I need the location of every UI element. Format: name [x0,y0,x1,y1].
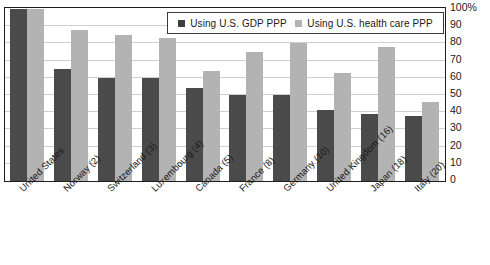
y-axis-tick-label: 30 [450,122,462,133]
legend-swatch-dark-icon [178,20,185,27]
y-axis-tick-label: 60 [450,71,462,82]
bar [10,9,27,181]
legend-label-gdp-ppp: Using U.S. GDP PPP [190,18,287,29]
bar [54,69,71,181]
bar [273,95,290,181]
bar-group [5,8,49,181]
legend-label-health-care-ppp: Using U.S. health care PPP [307,18,432,29]
bar-chart: Using U.S. GDP PPP Using U.S. health car… [0,0,490,265]
bar [229,95,246,181]
bar [71,30,88,181]
bar [405,116,422,181]
bar [98,78,115,181]
y-axis-tick-label: 90 [450,19,462,30]
y-axis-tick-label: 0 [450,174,456,185]
bar [142,78,159,181]
y-axis-tick-label: 10 [450,157,462,168]
legend-entry-gdp-ppp: Using U.S. GDP PPP [178,18,287,29]
x-axis: United StatesNorway (2)Switzerland (3)Lu… [4,182,446,265]
y-axis-tick-label: 70 [450,54,462,65]
y-axis-tick-label: 40 [450,105,462,116]
bar [27,9,44,181]
chart-legend: Using U.S. GDP PPP Using U.S. health car… [167,12,444,34]
bar [159,38,176,181]
y-axis-tick-label: 100% [450,2,477,13]
y-axis-tick-label: 20 [450,140,462,151]
y-axis-tick-label: 80 [450,36,462,47]
y-axis-tick-label: 50 [450,88,462,99]
bar [186,88,203,181]
bar-group [93,8,137,181]
bar [115,35,132,181]
y-axis: 100%9080706050403020100 [450,0,490,190]
legend-entry-health-care-ppp: Using U.S. health care PPP [295,18,432,29]
legend-swatch-light-icon [295,20,302,27]
